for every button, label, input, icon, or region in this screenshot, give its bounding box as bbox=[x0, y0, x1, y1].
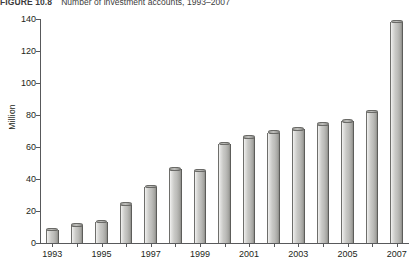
bar-2007 bbox=[390, 22, 403, 243]
bar-1994 bbox=[71, 225, 84, 243]
bar-2001 bbox=[243, 137, 256, 243]
bar-top-cap bbox=[292, 127, 304, 130]
bar-top-cap bbox=[268, 130, 280, 133]
bar-1995 bbox=[95, 222, 108, 243]
x-tick-mark bbox=[52, 244, 53, 247]
bar-top-cap bbox=[342, 119, 354, 122]
bar-top-cap bbox=[317, 122, 329, 125]
bar-chart: Million 020406080100120140 1993199519971… bbox=[0, 0, 409, 263]
x-tick-mark bbox=[323, 244, 324, 247]
x-tick-label: 2007 bbox=[377, 249, 409, 260]
y-tick-mark bbox=[36, 211, 40, 212]
bar-top-cap bbox=[145, 185, 157, 188]
x-tick-mark bbox=[348, 244, 349, 247]
bar-top-cap bbox=[46, 228, 58, 231]
y-tick-mark bbox=[36, 179, 40, 180]
x-tick-label: 1993 bbox=[32, 249, 72, 260]
bar-1997 bbox=[144, 187, 157, 243]
x-tick-mark bbox=[77, 244, 78, 247]
bar-2002 bbox=[267, 133, 280, 243]
x-tick-mark bbox=[274, 244, 275, 247]
x-tick-mark bbox=[298, 244, 299, 247]
x-tick-mark bbox=[249, 244, 250, 247]
bar-top-cap bbox=[391, 20, 403, 23]
bar-1993 bbox=[46, 230, 59, 243]
x-tick-mark bbox=[225, 244, 226, 247]
x-tick-mark bbox=[175, 244, 176, 247]
x-tick-mark bbox=[397, 244, 398, 247]
bar-2006 bbox=[366, 112, 379, 243]
bar-2003 bbox=[292, 129, 305, 243]
x-tick-mark bbox=[200, 244, 201, 247]
x-tick-mark bbox=[151, 244, 152, 247]
bar-2000 bbox=[218, 144, 231, 243]
x-tick-label: 1997 bbox=[131, 249, 171, 260]
x-tick-label: 1995 bbox=[82, 249, 122, 260]
x-tick-mark bbox=[372, 244, 373, 247]
bars-layer bbox=[0, 0, 409, 263]
bar-top-cap bbox=[366, 110, 378, 113]
y-tick-mark bbox=[36, 243, 40, 244]
bar-2005 bbox=[341, 121, 354, 243]
bar-top-cap bbox=[96, 220, 108, 223]
bar-top-cap bbox=[243, 135, 255, 138]
x-tick-label: 1999 bbox=[180, 249, 220, 260]
bar-2004 bbox=[317, 125, 330, 243]
y-tick-mark bbox=[36, 19, 40, 20]
x-tick-label: 2005 bbox=[328, 249, 368, 260]
x-tick-label: 2003 bbox=[278, 249, 318, 260]
x-tick-mark bbox=[126, 244, 127, 247]
bar-1999 bbox=[194, 171, 207, 243]
y-tick-mark bbox=[36, 83, 40, 84]
y-tick-mark bbox=[36, 147, 40, 148]
bar-top-cap bbox=[71, 223, 83, 226]
bar-top-cap bbox=[194, 169, 206, 172]
bar-top-cap bbox=[120, 202, 132, 205]
x-tick-label: 2001 bbox=[229, 249, 269, 260]
bar-1996 bbox=[120, 205, 133, 243]
y-tick-mark bbox=[36, 115, 40, 116]
bar-top-cap bbox=[169, 167, 181, 170]
y-tick-mark bbox=[36, 51, 40, 52]
bar-top-cap bbox=[219, 142, 231, 145]
bar-1998 bbox=[169, 169, 182, 243]
x-tick-mark bbox=[102, 244, 103, 247]
